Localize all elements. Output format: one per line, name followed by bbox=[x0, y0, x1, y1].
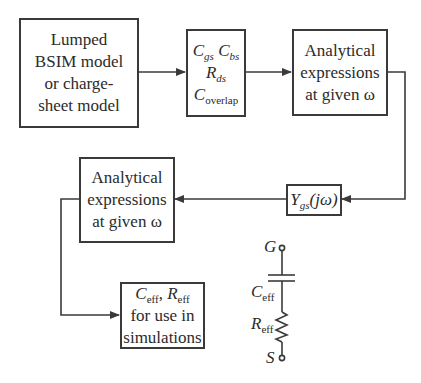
coverlap-label: Coverlap bbox=[194, 84, 238, 106]
gate-terminal-icon bbox=[279, 245, 284, 250]
result-box: Ceff, Reff for use in simulations bbox=[120, 282, 205, 349]
box-text: BSIM model bbox=[35, 51, 123, 73]
cgs-cbs-label: Cgs Cbs bbox=[193, 40, 240, 62]
resistor-label: Reff bbox=[251, 314, 273, 334]
box-text: Analytical bbox=[305, 40, 376, 62]
equivalent-circuit bbox=[268, 245, 295, 360]
source-terminal-icon bbox=[279, 355, 284, 360]
box-text: expressions bbox=[87, 189, 166, 211]
box-text: sheet model bbox=[38, 95, 120, 117]
gate-label: G bbox=[264, 237, 276, 257]
diagram-canvas: Lumped BSIM model or charge- sheet model… bbox=[0, 0, 421, 383]
analytical-expressions-bottom-box: Analytical expressions at given ω bbox=[79, 157, 175, 243]
box-text: Lumped bbox=[51, 29, 108, 51]
lumped-model-box: Lumped BSIM model or charge- sheet model bbox=[19, 18, 139, 128]
box-text: expressions bbox=[300, 62, 379, 84]
source-label: S bbox=[266, 348, 275, 368]
capacitor-label: Ceff bbox=[251, 282, 274, 302]
resistor-icon bbox=[276, 312, 287, 342]
ceff-reff-label: Ceff, Reff bbox=[135, 283, 189, 305]
parameters-box: Cgs Cbs Rds Coverlap bbox=[186, 29, 246, 117]
box-text: at given ω bbox=[92, 211, 162, 233]
ygs-box: Ygs(jω) bbox=[286, 184, 342, 216]
rds-label: Rds bbox=[206, 62, 226, 84]
box-text: simulations bbox=[123, 327, 201, 349]
box-text: or charge- bbox=[44, 73, 113, 95]
box-text: for use in bbox=[130, 305, 194, 327]
box-text: Analytical bbox=[92, 167, 163, 189]
box-text: at given ω bbox=[305, 84, 375, 106]
ygs-label: Ygs(jω) bbox=[290, 189, 337, 211]
analytical-expressions-top-box: Analytical expressions at given ω bbox=[292, 29, 388, 116]
